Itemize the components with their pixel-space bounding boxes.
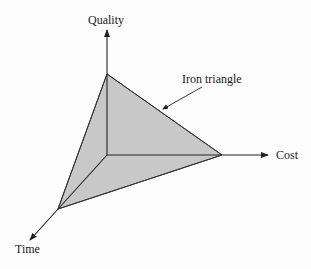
time-axis [30,155,107,240]
cost-label: Cost [276,148,298,163]
diagram-graphic [0,0,311,269]
iron-triangle-label: Iron triangle [182,72,242,87]
quality-label: Quality [88,13,124,28]
iron-triangle-diagram: Quality Cost Time Iron triangle [0,0,311,269]
callout-arrow [163,87,202,109]
time-label: Time [15,242,40,257]
